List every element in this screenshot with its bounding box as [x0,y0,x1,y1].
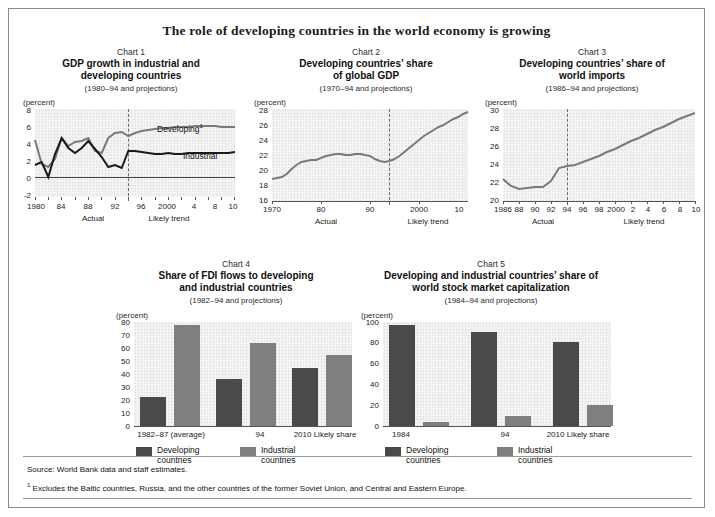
chart-2-ytick-26: 26 [252,122,268,130]
chart-5-ytick-40: 40 [357,381,379,389]
chart-1: Chart 1 GDP growth in industrial and dev… [15,47,247,221]
chart-1-ytick-neg2: -2 [15,192,31,200]
chart-4-x-axis [134,426,352,427]
chart-2-ytick-24: 24 [252,137,268,145]
chart-2-plot-area: 28 26 24 22 20 18 16 1970 80 [252,109,480,221]
chart-5: Chart 5 Developing and industrial countr… [357,259,625,452]
chart-5-legend-swatch-industrial [497,447,513,456]
figure-title: The role of developing countries in the … [9,23,704,39]
chart-2-share-line [272,112,468,179]
chart-4-group-label-2: 94 [248,430,272,439]
chart-3: Chart 3 Developing countries’ share of w… [483,47,701,221]
chart-1-trend-label: Likely trend [133,214,205,223]
chart-1-ytick-8: 8 [15,107,31,115]
chart-5-legend-swatch-developing [385,447,401,456]
chart-3-xtick-4: 4 [641,206,655,214]
chart-3-title-line2: world imports [483,70,701,82]
chart-3-xtick-90: 90 [527,206,543,214]
figure-page: The role of developing countries in the … [0,0,715,517]
chart-2-ytick-22: 22 [252,152,268,160]
chart-5-bar-developing-3 [553,342,579,426]
chart-1-number: Chart 1 [15,47,247,58]
chart-1-xtick-8: 8 [207,203,223,211]
chart-4-legend-swatch-developing [136,447,152,456]
chart-4-ytick-10: 10 [112,410,130,418]
chart-1-unit-label: (percent) [23,98,247,107]
chart-4-title-line2: and industrial countries [112,282,360,294]
chart-4-title-line1: Share of FDI flows to developing [112,270,360,282]
chart-5-group-label-2: 94 [493,430,517,439]
chart-2-ytick-16: 16 [252,197,268,205]
chart-3-xtick-6: 6 [657,206,671,214]
chart-1-xtick-1980: 1980 [23,203,49,211]
chart-5-subtitle: (1984–94 and projections) [357,295,625,306]
chart-3-actual-label: Actual [513,217,573,226]
chart-4-ytick-80: 80 [112,319,130,327]
chart-2-title-line2: of global GDP [252,70,480,82]
chart-5-number: Chart 5 [357,259,625,270]
chart-4-bars [134,322,352,426]
chart-1-ytick-0: 0 [15,175,31,183]
chart-2-title-line1: Developing countries’ share [252,58,480,70]
chart-3-xtick-2: 2 [626,206,640,214]
chart-2-number: Chart 2 [252,47,480,58]
chart-2-ytick-28: 28 [252,107,268,115]
footnote: 1 Excludes the Baltic countries, Russia,… [27,480,467,494]
chart-1-xtick-10: 10 [223,203,243,211]
chart-5-bar-developing-1 [389,325,415,426]
chart-2-trend-label: Likely trend [392,217,464,226]
chart-2-xtick-80: 80 [310,206,332,214]
chart-4-unit-label: (percent) [116,311,360,320]
chart-4-ytick-50: 50 [112,358,130,366]
chart-5-bar-industrial-3 [587,405,613,426]
chart-1-xtick-4: 4 [186,203,202,211]
chart-3-number: Chart 3 [483,47,701,58]
chart-5-title-line1: Developing and industrial countries’ sha… [357,270,625,282]
chart-4: Chart 4 Share of FDI flows to developing… [112,259,360,452]
chart-3-xtick-92: 92 [543,206,559,214]
chart-4-legend-swatch-industrial [240,447,256,456]
chart-3-xtick-96: 96 [575,206,591,214]
chart-5-bars [383,322,611,426]
chart-2-xtick-10: 10 [450,206,468,214]
chart-2-ytick-20: 20 [252,167,268,175]
chart-3-plot-area: 30 28 26 24 22 20 1986 [483,109,701,221]
chart-5-group-label-3: 2010 Likely share [529,430,627,439]
chart-3-subtitle: (1986–94 and projections) [483,83,701,94]
chart-1-xtick-92: 92 [104,203,126,211]
chart-5-ytick-100: 100 [357,319,379,327]
chart-2-series-svg [272,109,468,201]
chart-3-xtick-10: 10 [687,206,705,214]
chart-1-subtitle: (1980–94 and projections) [15,83,247,94]
chart-2-subtitle: (1970–94 and projections) [252,83,480,94]
chart-1-xtick-96: 96 [130,203,152,211]
chart-1-xtick-88: 88 [77,203,99,211]
chart-1-label-industrial: Industrial [183,151,218,161]
chart-2-actual-label: Actual [296,217,356,226]
chart-5-ytick-60: 60 [357,360,379,368]
chart-3-title-line1: Developing countries’ share of [483,58,701,70]
chart-4-ytick-30: 30 [112,384,130,392]
chart-2-xtick-2000: 2000 [406,206,432,214]
chart-5-group-label-1: 1984 [371,430,431,439]
footnote-marker: 1 [27,482,30,488]
chart-2-unit-label: (percent) [254,98,480,107]
chart-5-ytick-80: 80 [357,339,379,347]
chart-1-ytick-4: 4 [15,141,31,149]
chart-3-ytick-20: 20 [483,197,499,205]
chart-4-ytick-60: 60 [112,345,130,353]
chart-2-xtick-1970: 1970 [259,206,285,214]
chart-1-title-line1: GDP growth in industrial and [15,58,247,70]
chart-1-ytick-6: 6 [15,124,31,132]
chart-4-ytick-20: 20 [112,397,130,405]
chart-1-label-developing: Developing1 [157,123,203,134]
chart-4-number: Chart 4 [112,259,360,270]
chart-5-ytick-20: 20 [357,402,379,410]
chart-1-ytick-2: 2 [15,158,31,166]
footer-bottom-divider [23,498,692,499]
chart-4-bar-industrial-1 [174,325,200,426]
chart-5-bar-developing-2 [471,332,497,426]
chart-3-ytick-28: 28 [483,125,499,133]
chart-3-xtick-94: 94 [559,206,575,214]
chart-4-bar-industrial-3 [326,355,352,427]
